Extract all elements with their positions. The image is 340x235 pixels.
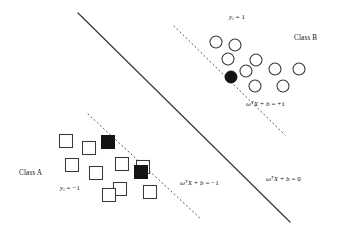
class-b-support-vectors xyxy=(225,71,237,83)
label-class-b: Class B xyxy=(294,35,317,42)
data-point-circle xyxy=(277,80,289,92)
data-point-square xyxy=(83,142,96,155)
label-hyperplane-zero: ωTX + b = 0 xyxy=(266,176,301,183)
hyperplane-value: −1 xyxy=(211,179,219,187)
support-vector-circle xyxy=(225,71,237,83)
data-point-square xyxy=(144,186,157,199)
class-b-open-circles xyxy=(210,36,305,92)
plus-operator: + xyxy=(192,179,200,187)
label-class-a: Class A xyxy=(19,170,42,177)
data-point-circle xyxy=(240,65,252,77)
data-point-square xyxy=(60,135,73,148)
data-point-circle xyxy=(249,80,261,92)
data-point-circle xyxy=(210,36,222,48)
data-point-square xyxy=(66,159,79,172)
y-value: −1 xyxy=(72,184,80,192)
data-point-circle xyxy=(293,63,305,75)
plus-operator: + xyxy=(258,100,266,108)
label-y-negative: yi = −1 xyxy=(60,185,80,193)
hyperplane-value: +1 xyxy=(277,100,285,108)
data-point-circle xyxy=(250,54,262,66)
hyperplane-value: 0 xyxy=(297,175,301,183)
support-vector-square xyxy=(102,136,115,149)
label-hyperplane-minus-one: ωTX + b = −1 xyxy=(180,180,219,187)
support-vector-square xyxy=(135,166,148,179)
data-point-circle xyxy=(269,63,281,75)
svm-diagram-figure: yi = 1 Class B ωTX + b = +1 ωTX + b = 0 … xyxy=(0,0,340,235)
data-point-square xyxy=(90,167,103,180)
label-hyperplane-plus-one: ωTX + b = +1 xyxy=(246,101,285,108)
plus-operator: + xyxy=(278,175,286,183)
data-point-circle xyxy=(229,39,241,51)
label-y-positive: yi = 1 xyxy=(229,14,245,22)
data-point-square xyxy=(103,189,116,202)
svm-diagram-canvas xyxy=(0,0,340,235)
data-point-circle xyxy=(222,53,234,65)
data-point-square xyxy=(116,158,129,171)
y-value: 1 xyxy=(241,13,245,21)
